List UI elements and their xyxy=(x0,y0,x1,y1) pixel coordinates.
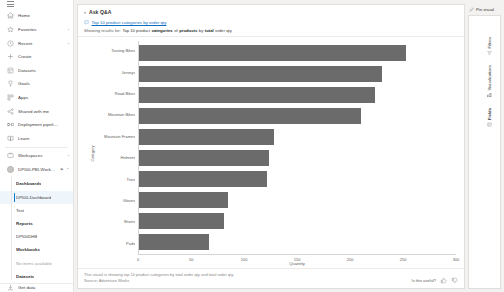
tree-label: Reports xyxy=(16,221,33,226)
share-icon xyxy=(7,108,14,115)
showing-token: by xyxy=(199,28,203,33)
bar-row[interactable] xyxy=(139,63,456,84)
workspaces-icon xyxy=(7,152,14,159)
visual-description: This visual is showing top 10 product ca… xyxy=(84,272,234,284)
bar-row[interactable] xyxy=(139,43,456,64)
bar-row[interactable] xyxy=(139,147,456,168)
right-pane: Pin visual Filters Visualizations xyxy=(468,0,504,292)
back-chevron-icon[interactable]: ‹ xyxy=(84,9,86,15)
home-icon xyxy=(7,12,14,19)
pin-visual-button[interactable]: Pin visual xyxy=(468,4,501,15)
tree-label: Dashboards xyxy=(16,181,41,186)
y-axis-title: Category xyxy=(84,41,100,267)
category-tick-label: Jerseys xyxy=(100,71,135,75)
tree-group-workbooks[interactable]: Workbooks xyxy=(0,243,73,256)
bar-row[interactable] xyxy=(139,189,456,210)
tab-filters[interactable]: Filters xyxy=(479,32,500,60)
bar[interactable] xyxy=(139,234,209,250)
page-title: Ask Q&A xyxy=(89,9,111,15)
bar-row[interactable] xyxy=(139,105,456,126)
collapse-chevron-icon[interactable]: ⌃ xyxy=(66,167,69,172)
pin-icon xyxy=(469,7,474,12)
tree-group-dashboards[interactable]: Dashboards xyxy=(0,177,73,190)
sidebar-item-shared-with-me[interactable]: Shared with me xyxy=(0,104,73,118)
category-tick-label: Tires xyxy=(100,178,135,182)
thumbs-down-icon[interactable] xyxy=(451,277,458,284)
sidebar-item-favorites[interactable]: Favorites › xyxy=(0,23,73,37)
bar[interactable] xyxy=(139,108,361,124)
qna-result-card: ‹ Ask Q&A Top 10 product categories by o… xyxy=(77,4,465,289)
showing-token: order qty xyxy=(215,28,232,33)
sidebar-item-workspaces[interactable]: Workspaces › xyxy=(0,149,73,163)
feedback-controls: Is this useful? xyxy=(412,277,458,284)
tree-item-dpi00dhb[interactable]: DPI00DHB xyxy=(0,230,73,243)
filter-icon xyxy=(487,50,492,55)
hamburger-icon xyxy=(7,1,14,7)
navigation-toggle[interactable] xyxy=(0,0,73,8)
thumbs-up-icon[interactable] xyxy=(440,277,447,284)
star-icon xyxy=(7,26,14,33)
sidebar-item-apps[interactable]: Apps xyxy=(0,91,73,105)
apps-icon xyxy=(7,94,14,101)
description-line-2: Source: Adventure Works xyxy=(84,278,234,284)
workspace-name: DPI00-PBI-Work... xyxy=(18,167,56,172)
bar[interactable] xyxy=(139,129,274,145)
sidebar-item-home[interactable]: Home xyxy=(0,9,73,23)
sidebar-item-label: Apps xyxy=(18,95,60,100)
bar[interactable] xyxy=(139,192,228,208)
bar-row[interactable] xyxy=(139,210,456,231)
category-tick-labels: Touring BikesJerseysRoad BikesMountain B… xyxy=(100,41,138,255)
sidebar-item-learn[interactable]: Learn xyxy=(0,132,73,146)
sidebar-item-recent[interactable]: Recent › xyxy=(0,36,73,50)
sidebar-item-label: Goals xyxy=(18,81,60,86)
sidebar-item-datasets[interactable]: Datasets xyxy=(0,64,73,78)
qna-page: Home Favorites › Recent › xyxy=(0,0,504,292)
get-data-button[interactable]: Get data xyxy=(0,283,73,292)
x-axis-tick-label: 0 xyxy=(137,257,139,262)
bar-row[interactable] xyxy=(139,231,456,252)
pin-visual-label: Pin visual xyxy=(476,7,494,12)
main-content: ‹ Ask Q&A Top 10 product categories by o… xyxy=(74,0,468,292)
tab-visualizations[interactable]: Visualizations xyxy=(479,60,500,103)
bar-row[interactable] xyxy=(139,84,456,105)
bar[interactable] xyxy=(139,45,406,61)
chevron-right-icon: › xyxy=(64,41,69,46)
tree-item-test[interactable]: Test xyxy=(0,204,73,217)
bar[interactable] xyxy=(139,87,374,103)
sidebar-item-label: Home xyxy=(18,13,60,18)
tab-fields[interactable]: Fields xyxy=(479,103,500,132)
category-tick-label: Shorts xyxy=(100,220,135,224)
get-data-icon xyxy=(7,284,14,291)
bar[interactable] xyxy=(139,171,267,187)
sidebar-item-label: Learn xyxy=(18,136,60,141)
bar-row[interactable] xyxy=(139,126,456,147)
showing-token: of xyxy=(174,28,178,33)
pipeline-icon xyxy=(7,121,14,128)
bar[interactable] xyxy=(139,150,269,166)
dataset-icon xyxy=(7,67,14,74)
sidebar-item-label: Shared with me xyxy=(18,109,60,114)
bar[interactable] xyxy=(139,213,223,229)
qna-topbar: ‹ Ask Q&A xyxy=(78,5,464,19)
bar-row[interactable] xyxy=(139,168,456,189)
tree-item-dpi00-dashboard[interactable]: DPI00-Dashboard xyxy=(0,191,73,204)
category-tick-label: Gloves xyxy=(100,199,135,203)
sidebar-current-workspace[interactable]: DPI00-PBI-Work... ⚑ ⌃ xyxy=(0,163,73,177)
tree-group-reports[interactable]: Reports xyxy=(0,217,73,230)
tree-group-datasets[interactable]: Datasets xyxy=(0,270,73,283)
category-tick-label: Road Bikes xyxy=(100,92,135,96)
bar[interactable] xyxy=(139,66,382,82)
sidebar-item-create[interactable]: Create xyxy=(0,50,73,64)
left-sidebar: Home Favorites › Recent › xyxy=(0,0,74,292)
qna-showing-results: Showing results for: Top 10 product cate… xyxy=(78,25,464,33)
sidebar-item-deployment-pipelines[interactable]: Deployment pipelines xyxy=(0,118,73,132)
category-tick-label: Mountain Frames xyxy=(100,135,135,139)
bar-chart: Category Touring BikesJerseysRoad BikesM… xyxy=(78,37,464,269)
sidebar-item-goals[interactable]: Goals xyxy=(0,77,73,91)
x-axis: 050100150200250300 Quantity xyxy=(100,254,456,266)
sidebar-item-label: Create xyxy=(18,54,60,59)
sidebar-item-label: Deployment pipelines xyxy=(18,122,60,127)
category-tick-label: Mountain Bikes xyxy=(100,113,135,117)
primary-nav-list: Home Favorites › Recent › xyxy=(0,8,73,176)
x-axis-tick-labels: 050100150200250300 xyxy=(138,255,456,263)
